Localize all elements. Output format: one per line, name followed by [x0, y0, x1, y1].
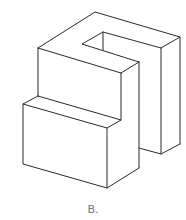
step-outline: [23, 96, 121, 128]
notch-outline: [82, 32, 161, 62]
top-face-front-edge: [38, 48, 121, 73]
top-face-outline: [38, 12, 180, 48]
top-inner-edge: [121, 62, 139, 73]
lower-block-outline: [23, 104, 139, 188]
right-pillar-bottom: [139, 144, 180, 154]
isometric-block-drawing: [0, 0, 186, 200]
figure-caption: B.: [0, 203, 186, 216]
